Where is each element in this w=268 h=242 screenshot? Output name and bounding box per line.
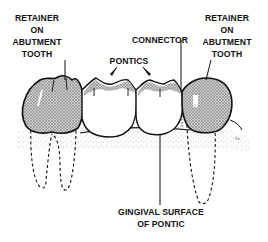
label-pontics: PONTICS bbox=[104, 55, 154, 67]
label-retainer-left: RETAINER ON ABUTMENT TOOTH bbox=[6, 12, 68, 60]
label-retainer-right: RETAINER ON ABUTMENT TOOTH bbox=[196, 12, 258, 60]
label-gingival-surface: GINGIVAL SURFACE OF PONTIC bbox=[96, 206, 226, 230]
right-retainer-crown bbox=[182, 78, 232, 133]
label-connector: CONNECTOR bbox=[132, 34, 188, 46]
artist-mark: Rx bbox=[235, 136, 240, 141]
right-crown-highlight bbox=[193, 95, 198, 107]
pontic-arrows bbox=[110, 67, 151, 76]
